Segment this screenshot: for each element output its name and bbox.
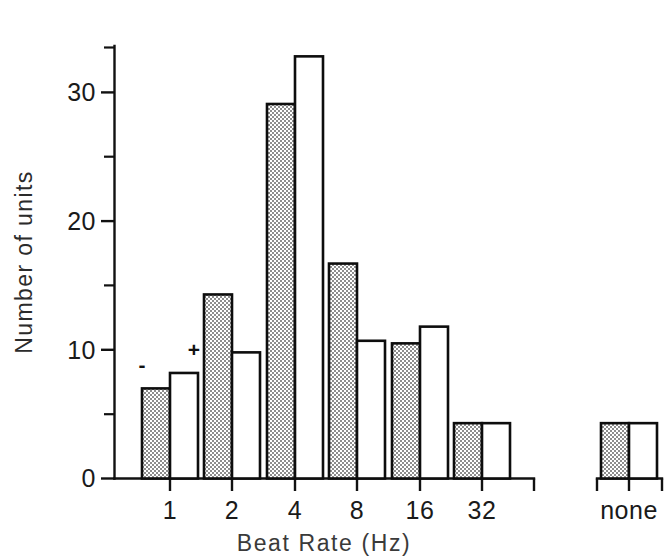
x-tick-label-2: 2 <box>225 496 239 524</box>
bar-32-plus <box>482 423 510 478</box>
chart-figure: 30 20 10 0 Number of units 1 <box>0 0 668 556</box>
x-tick-label-4: 4 <box>288 496 302 524</box>
bar-8-minus <box>329 264 357 479</box>
bar-none-plus <box>629 423 657 478</box>
y-tick-label-0: 0 <box>82 464 96 492</box>
y-axis-title: Number of units <box>11 170 37 353</box>
bar-1-minus <box>142 388 170 478</box>
beat-rate-histogram: 30 20 10 0 Number of units 1 <box>0 0 668 556</box>
x-tick-label-8: 8 <box>350 496 364 524</box>
x-tick-label-16: 16 <box>406 496 435 524</box>
bar-8-plus <box>357 341 385 479</box>
y-tick-label-30: 30 <box>67 78 96 106</box>
y-tick-label-10: 10 <box>67 336 96 364</box>
y-tick-label-20: 20 <box>67 207 96 235</box>
bar-16-minus <box>392 343 420 478</box>
series-mark-shaded: - <box>139 353 146 376</box>
bar-4-minus <box>267 104 295 479</box>
bar-2-minus <box>204 294 232 478</box>
x-tick-label-1: 1 <box>163 496 177 524</box>
x-axis-title: Beat Rate (Hz) <box>237 530 412 556</box>
bar-32-minus <box>454 423 482 478</box>
bar-2-plus <box>232 352 260 478</box>
bar-1-plus <box>170 373 198 479</box>
y-axis-title-group: Number of units <box>11 170 37 353</box>
x-tick-label-none: none <box>600 496 658 524</box>
bar-16-plus <box>420 327 448 479</box>
x-tick-label-32: 32 <box>468 496 497 524</box>
series-mark-white: + <box>188 338 200 361</box>
bar-none-minus <box>601 423 629 478</box>
bar-4-plus <box>295 56 323 478</box>
